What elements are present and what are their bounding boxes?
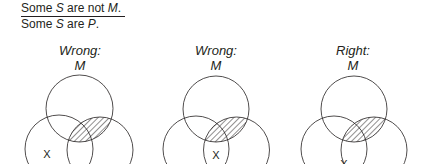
diagram-2-x-mark: X [212,149,220,161]
diagram-1 [25,75,133,164]
diagram-1-shaded-region [67,117,133,164]
diagram-3-shaded-region [341,117,407,164]
venn-diagrams: X X X [0,0,431,164]
diagram-3-x-mark: X [340,158,348,164]
diagram-1-x-mark: X [43,148,51,160]
diagram-3 [301,76,407,164]
